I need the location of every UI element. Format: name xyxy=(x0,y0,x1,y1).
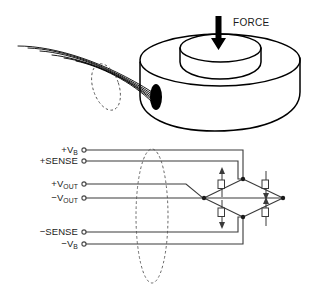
wire-vout-plus xyxy=(86,184,203,198)
gauge-bottom-left xyxy=(218,200,225,229)
load-cell-illustration: FORCE xyxy=(18,16,300,131)
gauge-top-left xyxy=(218,167,225,197)
wire-sense-minus xyxy=(86,217,243,232)
bridge-node-right xyxy=(281,196,285,200)
wire-vb-minus xyxy=(86,217,243,244)
figure-canvas: FORCE +VB +SENSE +VOUT −VOUT −SENSE −VB xyxy=(0,0,311,290)
terminal-labels: +VB +SENSE +VOUT −VOUT −SENSE −VB xyxy=(40,144,79,250)
wheatstone-bridge xyxy=(202,177,285,219)
wire-vb-plus xyxy=(86,150,243,179)
schematic-wires xyxy=(86,150,243,244)
gauge-bottom-right xyxy=(262,197,269,226)
six-conductor-cable xyxy=(18,46,152,102)
bridge-node-bottom xyxy=(241,215,245,219)
terminal-label-vout-minus: −VOUT xyxy=(51,192,78,204)
bridge-node-top xyxy=(241,177,245,181)
terminal-label-sense-plus: +SENSE xyxy=(40,155,78,166)
terminal-label-sense-minus: −SENSE xyxy=(40,226,78,237)
bridge-schematic: +VB +SENSE +VOUT −VOUT −SENSE −VB xyxy=(40,144,286,283)
terminal-label-vout-plus: +VOUT xyxy=(51,178,78,190)
downward-force-arrow xyxy=(211,16,226,50)
gauge-top-right xyxy=(262,171,269,200)
terminal-label-vb-minus: −VB xyxy=(61,238,78,250)
schematic-highlight-ellipse xyxy=(136,149,168,283)
cable-exit-port xyxy=(150,84,162,110)
bridge-node-left xyxy=(202,196,206,200)
load-cell-cylinder xyxy=(140,34,300,131)
terminal-dots xyxy=(82,148,86,246)
load-cell-figure: FORCE +VB +SENSE +VOUT −VOUT −SENSE −VB xyxy=(0,0,311,290)
force-label: FORCE xyxy=(233,17,270,28)
